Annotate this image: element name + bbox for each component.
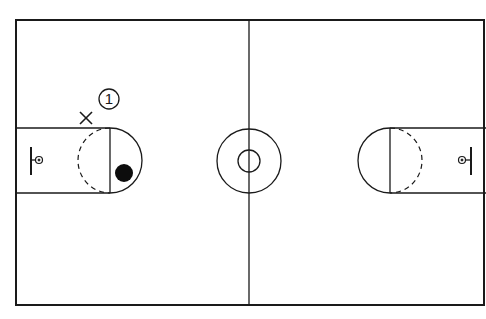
player-number: 1 (105, 90, 113, 107)
ball-icon (115, 164, 133, 182)
left-free-throw-arc-dashed (78, 128, 110, 193)
right-free-throw-arc (358, 128, 390, 193)
defender-marker (80, 112, 92, 124)
left-free-throw-arc (110, 128, 142, 193)
court-boundary (16, 20, 484, 305)
right-key (358, 128, 486, 193)
right-free-throw-arc-dashed (390, 128, 422, 193)
left-key (16, 128, 142, 193)
basketball-court: 1 (0, 0, 486, 319)
offense-player-marker: 1 (99, 89, 119, 109)
